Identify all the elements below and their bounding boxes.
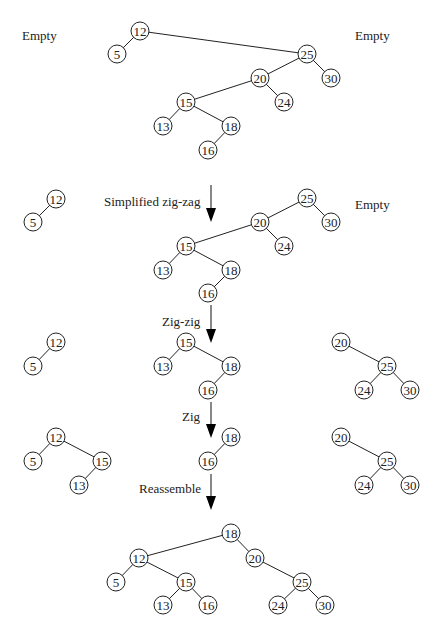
tree-node: 16 <box>199 596 217 614</box>
node-value: 15 <box>180 239 193 254</box>
label-empty-right-2: Empty <box>355 197 390 212</box>
down-arrow-icon <box>206 474 216 510</box>
splay-diagram: 1252520301524131816125252030152413181612… <box>0 0 437 636</box>
node-value: 15 <box>180 95 193 110</box>
tree-node: 15 <box>177 237 195 255</box>
tree-node: 30 <box>401 381 419 399</box>
stage-nodes-reassembled: 1812205152513162430 <box>107 524 334 614</box>
tree-node: 15 <box>177 333 195 351</box>
node-value: 20 <box>254 215 267 230</box>
tree-node: 5 <box>107 573 125 591</box>
node-value: 16 <box>202 383 216 398</box>
tree-node: 5 <box>24 452 42 470</box>
node-value: 5 <box>30 215 37 230</box>
edges-layer <box>33 31 410 605</box>
node-value: 30 <box>325 71 338 86</box>
down-arrow-icon <box>206 305 216 343</box>
tree-node: 20 <box>332 428 350 446</box>
tree-node: 13 <box>154 596 172 614</box>
tree-node: 13 <box>154 261 172 279</box>
node-value: 5 <box>114 47 121 62</box>
node-value: 15 <box>180 575 193 590</box>
tree-node: 15 <box>177 573 195 591</box>
node-value: 25 <box>381 454 394 469</box>
tree-node: 12 <box>130 549 148 567</box>
tree-node: 5 <box>24 357 42 375</box>
node-value: 13 <box>73 478 86 493</box>
tree-edge <box>186 78 260 102</box>
node-value: 12 <box>50 192 63 207</box>
tree-node: 16 <box>199 284 217 302</box>
label-step-zig-zig: Zig-zig <box>162 314 201 329</box>
tree-node: 24 <box>275 237 293 255</box>
label-step-reassemble: Reassemble <box>139 481 201 496</box>
node-value: 24 <box>358 478 372 493</box>
tree-node: 20 <box>251 69 269 87</box>
tree-node: 25 <box>298 189 316 207</box>
node-value: 12 <box>134 24 147 39</box>
node-value: 18 <box>225 526 238 541</box>
down-arrow-icon <box>206 185 216 222</box>
node-value: 30 <box>325 215 338 230</box>
node-value: 5 <box>30 454 37 469</box>
tree-node: 12 <box>47 428 65 446</box>
tree-node: 30 <box>322 213 340 231</box>
tree-node: 15 <box>177 93 195 111</box>
tree-node: 16 <box>199 141 217 159</box>
tree-node: 5 <box>24 213 42 231</box>
tree-node: 25 <box>378 452 396 470</box>
tree-node: 30 <box>322 69 340 87</box>
tree-node: 20 <box>246 549 264 567</box>
tree-node: 12 <box>47 190 65 208</box>
tree-node: 20 <box>332 333 350 351</box>
label-step-simplified-zig-zag: Simplified zig-zag <box>104 194 201 209</box>
tree-node: 25 <box>378 357 396 375</box>
node-value: 12 <box>50 430 63 445</box>
node-value: 25 <box>301 191 314 206</box>
node-value: 18 <box>225 359 238 374</box>
tree-node: 13 <box>154 357 172 375</box>
node-value: 25 <box>296 575 309 590</box>
tree-node: 20 <box>251 213 269 231</box>
stage-nodes-after-zig-zig: 1251513181620252430 <box>24 333 419 399</box>
tree-node: 18 <box>222 357 240 375</box>
node-value: 24 <box>278 95 292 110</box>
stage-reassembled <box>116 533 325 605</box>
node-value: 20 <box>254 71 267 86</box>
node-value: 13 <box>157 263 170 278</box>
tree-node: 16 <box>199 381 217 399</box>
tree-edge <box>139 533 231 558</box>
node-value: 18 <box>225 119 238 134</box>
node-value: 25 <box>381 359 394 374</box>
nodes-layer: 1252520301524131816125252030152413181612… <box>24 22 419 614</box>
node-value: 30 <box>319 598 332 613</box>
node-value: 24 <box>278 239 292 254</box>
node-value: 20 <box>335 335 348 350</box>
node-value: 5 <box>30 359 37 374</box>
tree-node: 30 <box>316 596 334 614</box>
node-value: 30 <box>404 383 417 398</box>
tree-node: 12 <box>47 333 65 351</box>
node-value: 18 <box>225 430 238 445</box>
label-empty-right-1: Empty <box>355 28 390 43</box>
stage-after-zig <box>33 437 410 485</box>
down-arrow-icon <box>206 402 216 438</box>
tree-node: 16 <box>199 452 217 470</box>
tree-node: 12 <box>131 22 149 40</box>
tree-edge <box>186 222 260 246</box>
tree-node: 5 <box>108 45 126 63</box>
tree-node: 25 <box>293 573 311 591</box>
tree-node: 18 <box>222 524 240 542</box>
node-value: 13 <box>157 598 170 613</box>
node-value: 24 <box>358 383 372 398</box>
label-step-zig: Zig <box>182 409 201 424</box>
node-value: 16 <box>202 454 216 469</box>
label-empty-left-1: Empty <box>22 28 57 43</box>
tree-node: 24 <box>275 93 293 111</box>
tree-node: 24 <box>355 381 373 399</box>
node-value: 12 <box>133 551 146 566</box>
node-value: 5 <box>113 575 120 590</box>
tree-edge <box>140 31 307 54</box>
tree-node: 13 <box>70 476 88 494</box>
node-value: 12 <box>50 335 63 350</box>
